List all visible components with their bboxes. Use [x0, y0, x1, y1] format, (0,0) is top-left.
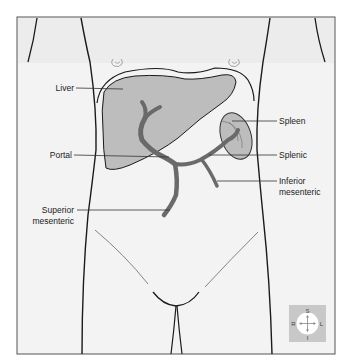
- compass-right: R: [291, 321, 296, 327]
- anatomy-diagram: Liver Portal Superior mesenteric Spleen …: [0, 0, 349, 363]
- label-splenic: Splenic: [279, 150, 308, 160]
- label-liver: Liver: [56, 83, 75, 93]
- orientation-compass: S I R L: [289, 305, 326, 342]
- compass-superior: S: [305, 308, 309, 314]
- label-inferior-mesenteric-2: mesenteric: [279, 187, 321, 197]
- label-spleen: Spleen: [279, 116, 306, 126]
- label-inferior-mesenteric-1: Inferior: [279, 176, 306, 186]
- label-superior-mesenteric-2: mesenteric: [32, 216, 74, 226]
- label-portal: Portal: [50, 150, 72, 160]
- label-superior-mesenteric-1: Superior: [42, 205, 74, 215]
- upper-shade: [18, 18, 334, 63]
